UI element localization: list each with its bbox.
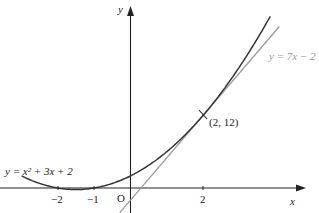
y-axis-label: y bbox=[118, 4, 123, 15]
x-axis-arrow-icon bbox=[296, 185, 306, 192]
tangent-equation-label: y = 7x − 2 bbox=[269, 51, 316, 62]
x-axis-label: x bbox=[290, 196, 295, 207]
point-label: (2, 12) bbox=[209, 117, 238, 128]
tick-label: −1 bbox=[87, 194, 99, 205]
tick-label: −2 bbox=[51, 194, 63, 205]
curve-equation-label: y = x² + 3x + 2 bbox=[5, 166, 73, 177]
quadratic-curve bbox=[22, 16, 271, 189]
y-axis-arrow-icon bbox=[127, 6, 134, 16]
tick-label: 2 bbox=[200, 194, 206, 205]
plot-area bbox=[0, 0, 319, 213]
origin-label: O bbox=[117, 193, 125, 204]
chart: y x O −2 −1 2 (2, 12) y = x² + 3x + 2 y … bbox=[0, 0, 319, 213]
